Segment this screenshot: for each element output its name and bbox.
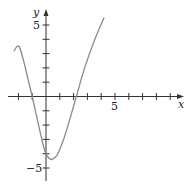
y-tick-label-neg5: −5 — [26, 162, 42, 175]
y-axis-label: y — [32, 6, 40, 19]
x-axis-label: x — [178, 98, 185, 111]
y-tick-label-5: 5 — [33, 19, 40, 32]
function-plot: x y 5 5 −5 — [0, 0, 190, 184]
x-tick-label-5: 5 — [111, 100, 118, 113]
function-curve — [14, 18, 104, 160]
y-axis-arrow-icon — [44, 9, 49, 16]
